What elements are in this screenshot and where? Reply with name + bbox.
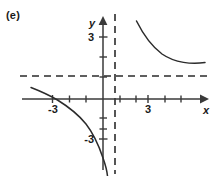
curve-upper-right-branch (137, 21, 206, 63)
y-axis-label: y (88, 17, 96, 29)
x-tick-label-3: 3 (145, 103, 151, 115)
x-tick-label-minus3: -3 (48, 103, 58, 115)
figure-panel: (e) (0, 0, 218, 176)
y-tick-label-minus3: -3 (84, 133, 94, 145)
plot-canvas: y x -3 3 3 -3 (0, 0, 218, 176)
y-tick-label-3: 3 (88, 31, 94, 43)
x-axis-label: x (202, 104, 210, 116)
y-axis-arrowhead (99, 16, 108, 25)
x-axis-arrowhead (200, 95, 209, 104)
